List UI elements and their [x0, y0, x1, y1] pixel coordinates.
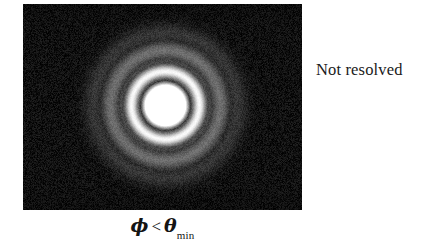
diffraction-image-panel: [23, 4, 302, 210]
less-than-symbol: <: [148, 217, 164, 236]
not-resolved-annotation: Not resolved: [316, 60, 403, 80]
theta-symbol: θ: [164, 214, 177, 236]
figure-container: Not resolved ϕ<θmin: [0, 0, 439, 243]
theta-subscript-min: min: [177, 229, 195, 241]
airy-disk-heatmap: [23, 4, 302, 210]
phi-symbol: ϕ: [131, 214, 149, 236]
figure-caption: ϕ<θmin: [23, 214, 302, 238]
